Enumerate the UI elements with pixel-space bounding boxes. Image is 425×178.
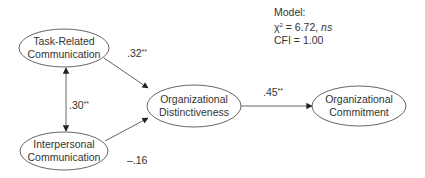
node-distinctiveness-line1: Organizational — [147, 93, 241, 106]
edge-interpersonal-to-distinctiveness — [105, 118, 148, 141]
node-commitment-line1: Organizational — [312, 93, 406, 106]
node-interpersonal: Interpersonal Communication — [20, 138, 108, 164]
sig-stars: ** — [142, 48, 147, 55]
node-commitment-line2: Commitment — [312, 106, 406, 119]
node-distinctiveness: Organizational Distinctiveness — [147, 93, 241, 119]
coef-value: –.16 — [127, 154, 147, 166]
node-task-related-line2: Communication — [19, 48, 109, 61]
edge-label-correlation: .30** — [69, 99, 89, 111]
node-task-related-line1: Task-Related — [19, 35, 109, 48]
node-interpersonal-line1: Interpersonal — [20, 138, 108, 151]
chi-significance: ns — [321, 21, 332, 33]
sig-stars: ** — [278, 87, 283, 94]
chi-value: = 6.72, — [283, 21, 321, 33]
coef-value: .32 — [127, 47, 142, 59]
node-task-related: Task-Related Communication — [19, 35, 109, 61]
coef-value: .45 — [263, 86, 278, 98]
coef-value: .30 — [69, 99, 84, 111]
model-fit-stats: Model: χ2 = 6.72, ns CFI = 1.00 — [274, 6, 332, 47]
node-commitment: Organizational Commitment — [312, 93, 406, 119]
edge-label-distinctiveness-to-commitment: .45** — [263, 86, 283, 98]
node-interpersonal-line2: Communication — [20, 151, 108, 164]
edge-label-task-to-distinctiveness: .32** — [127, 47, 147, 59]
sig-stars: ** — [84, 100, 89, 107]
edge-label-interpersonal-to-distinctiveness: –.16 — [127, 154, 147, 166]
edge-task-to-distinctiveness — [104, 58, 148, 88]
model-chi-square: χ2 = 6.72, ns — [274, 19, 332, 34]
model-cfi: CFI = 1.00 — [274, 34, 332, 47]
model-heading: Model: — [274, 6, 332, 19]
node-distinctiveness-line2: Distinctiveness — [147, 106, 241, 119]
